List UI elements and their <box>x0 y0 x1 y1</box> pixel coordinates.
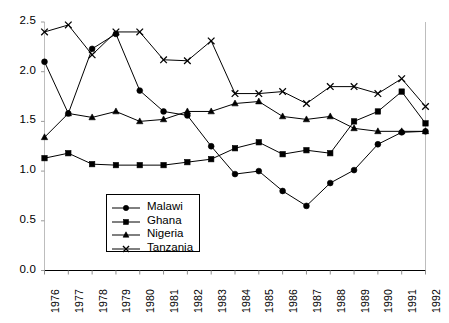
data-point-marker-square <box>137 162 142 167</box>
data-point-marker-square <box>399 89 404 94</box>
legend-item-tanzania: Tanzania <box>111 240 193 254</box>
data-point-marker-square <box>256 140 261 145</box>
data-point-marker-circle <box>42 59 48 65</box>
series-malawi <box>42 31 429 209</box>
legend-marker-cross-icon <box>111 241 141 253</box>
data-point-marker-circle <box>232 171 238 177</box>
legend-marker-circle-icon <box>111 200 141 212</box>
x-axis-tick-label: 1987 <box>311 288 323 312</box>
data-point-marker-circle <box>208 143 214 149</box>
series-nigeria <box>41 98 428 140</box>
legend-item-label: Nigeria <box>147 227 183 239</box>
x-axis-tick-label: 1985 <box>263 288 275 312</box>
x-axis-tick-label: 1978 <box>97 288 109 312</box>
data-point-marker-circle <box>351 167 357 173</box>
data-point-marker-square <box>208 156 213 161</box>
data-point-marker-circle <box>280 188 286 194</box>
x-axis-tick-label: 1992 <box>430 288 442 312</box>
data-point-marker-triangle <box>279 113 285 119</box>
x-axis-tick-label: 1979 <box>120 288 132 312</box>
y-axis-tick-label: 0.0 <box>4 263 36 275</box>
line-chart-plot <box>0 0 449 323</box>
series-line-nigeria <box>45 102 426 138</box>
data-point-marker-triangle <box>113 108 119 114</box>
legend-item-nigeria: Nigeria <box>111 226 183 240</box>
x-axis-tick-label: 1988 <box>335 288 347 312</box>
data-point-marker-square <box>113 162 118 167</box>
legend-item-malawi: Malawi <box>111 199 183 213</box>
data-point-marker-square <box>66 151 71 156</box>
data-point-marker-triangle <box>256 98 262 104</box>
y-axis-tick-label: 2.0 <box>4 64 36 76</box>
data-point-marker-circle <box>137 88 143 94</box>
y-axis-tick-label: 0.5 <box>4 213 36 225</box>
data-point-marker-square <box>89 161 94 166</box>
data-point-marker-square <box>161 162 166 167</box>
x-axis-tick-label: 1991 <box>406 288 418 312</box>
data-point-marker-circle <box>123 205 128 210</box>
chart-legend: MalawiGhanaNigeriaTanzania <box>106 194 200 252</box>
x-axis-tick-label: 1984 <box>240 288 252 312</box>
legend-item-ghana: Ghana <box>111 213 182 227</box>
x-axis-tick-label: 1982 <box>192 288 204 312</box>
data-point-marker-circle <box>256 168 262 174</box>
chart-container: 0.00.51.01.52.02.5 197619771978197919801… <box>0 0 449 323</box>
data-point-marker-cross <box>398 75 405 82</box>
legend-item-label: Malawi <box>147 200 183 212</box>
data-point-marker-square <box>423 121 428 126</box>
data-point-marker-square <box>124 219 129 224</box>
data-point-marker-circle <box>304 203 310 209</box>
data-point-marker-cross <box>65 22 72 29</box>
data-point-marker-square <box>351 119 356 124</box>
data-point-marker-square <box>185 159 190 164</box>
y-axis-tick-label: 2.5 <box>4 14 36 26</box>
x-axis-tick-label: 1981 <box>168 288 180 312</box>
data-point-marker-circle <box>327 180 333 186</box>
legend-item-label: Ghana <box>147 214 182 226</box>
data-point-marker-circle <box>161 109 167 115</box>
x-axis-tick-label: 1980 <box>144 288 156 312</box>
x-axis-tick-label: 1977 <box>73 288 85 312</box>
x-axis-tick-label: 1983 <box>216 288 228 312</box>
y-axis-tick-label: 1.5 <box>4 113 36 125</box>
x-axis-tick-label: 1990 <box>382 288 394 312</box>
data-point-marker-square <box>232 146 237 151</box>
data-point-marker-triangle <box>123 232 129 237</box>
x-axis-tick-label: 1989 <box>359 288 371 312</box>
data-point-marker-square <box>304 148 309 153</box>
x-axis-tick-label: 1986 <box>287 288 299 312</box>
data-point-marker-cross <box>208 38 215 45</box>
data-point-marker-circle <box>89 46 95 52</box>
series-line-malawi <box>45 34 426 206</box>
data-point-marker-square <box>375 109 380 114</box>
data-point-marker-cross <box>375 90 382 97</box>
data-point-marker-triangle <box>327 113 333 119</box>
data-point-marker-triangle <box>184 108 190 114</box>
data-point-marker-square <box>328 151 333 156</box>
data-point-marker-square <box>42 155 47 160</box>
legend-item-label: Tanzania <box>147 241 193 253</box>
series-tanzania <box>41 22 429 110</box>
series-layer <box>41 22 429 209</box>
y-axis-tick-label: 1.0 <box>4 163 36 175</box>
data-point-marker-square <box>280 152 285 157</box>
legend-marker-triangle-icon <box>111 227 141 239</box>
data-point-marker-cross <box>303 100 310 107</box>
x-axis-tick-label: 1976 <box>49 288 61 312</box>
data-point-marker-circle <box>375 141 381 147</box>
legend-marker-square-icon <box>111 214 141 226</box>
